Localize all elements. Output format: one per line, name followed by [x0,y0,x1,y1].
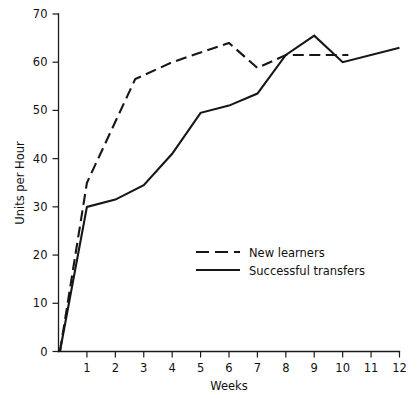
y-axis: 010203040506070 [33,7,59,359]
x-tick-label: 2 [112,361,119,375]
x-tick-label: 1 [83,361,90,375]
y-tick-label: 10 [33,296,48,310]
y-tick-label: 50 [33,103,48,117]
series-layer [60,36,400,352]
y-tick-label: 0 [40,345,47,359]
x-tick-label: 10 [335,361,350,375]
y-tick-label: 60 [33,55,48,69]
series-line-successful-transfers [60,36,400,352]
y-tick-label: 70 [33,7,48,21]
chart-canvas: 010203040506070 123456789101112 New lear… [0,0,420,407]
y-axis-ticks: 010203040506070 [33,7,59,359]
y-axis-title: Units per Hour [13,141,27,225]
x-axis-ticks: 123456789101112 [83,352,407,375]
y-tick-label: 20 [33,248,48,262]
x-tick-label: 7 [254,361,261,375]
legend-label-new-learners: New learners [249,246,325,260]
x-tick-label: 6 [225,361,232,375]
x-tick-label: 11 [364,361,379,375]
x-tick-label: 9 [311,361,318,375]
x-axis-title: Weeks [210,379,248,393]
y-tick-label: 30 [33,200,48,214]
x-tick-label: 4 [169,361,176,375]
x-tick-label: 8 [282,361,289,375]
y-tick-label: 40 [33,152,48,166]
x-tick-label: 3 [140,361,147,375]
legend-label-successful-transfers: Successful transfers [249,264,365,278]
x-axis: 123456789101112 [59,352,407,375]
x-tick-label: 12 [392,361,407,375]
series-line-new-learners [60,43,348,352]
line-chart: 010203040506070 123456789101112 New lear… [0,0,420,407]
x-tick-label: 5 [197,361,204,375]
chart-legend: New learnersSuccessful transfers [196,246,365,278]
